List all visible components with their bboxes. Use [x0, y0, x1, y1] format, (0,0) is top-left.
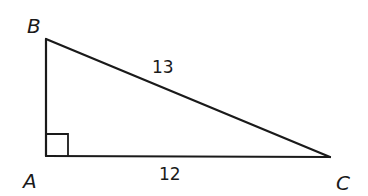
- vertex-label-c: C: [336, 171, 350, 195]
- vertex-label-b: B: [27, 14, 41, 38]
- side-ac: [46, 156, 330, 157]
- side-label-ac: 12: [159, 164, 181, 184]
- side-label-bc: 13: [152, 57, 174, 77]
- side-bc: [46, 39, 330, 157]
- vertex-label-a: A: [21, 169, 37, 193]
- triangle-diagram: B A C 13 12: [0, 0, 368, 196]
- triangle-svg: B A C 13 12: [0, 0, 368, 196]
- right-angle-marker-icon: [46, 134, 68, 156]
